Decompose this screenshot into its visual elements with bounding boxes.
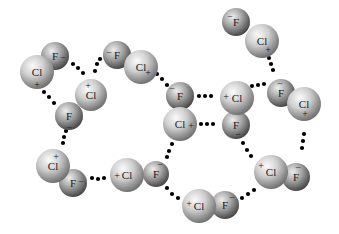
interaction-dot (93, 69, 97, 73)
positive-charge: + (85, 80, 91, 91)
fluorine-label: F (66, 110, 72, 122)
dipole-interaction (241, 141, 253, 158)
interaction-dot (302, 132, 306, 136)
dipole-interaction (93, 57, 102, 73)
positive-charge: + (265, 44, 271, 55)
positive-charge: + (114, 170, 120, 181)
interaction-dot (249, 154, 253, 158)
clf-dipole-diagram: F−Cl+F−Cl+F−Cl+F−Cl+F−Cl+F−Cl+F−Cl+F−Cl+… (0, 0, 339, 234)
interaction-dot (211, 122, 215, 126)
interaction-dot (209, 94, 213, 98)
positive-charge: + (302, 108, 308, 119)
positive-charge: + (145, 67, 151, 78)
interaction-dot (241, 141, 245, 145)
interaction-dot (76, 66, 80, 70)
interaction-dot (252, 188, 256, 192)
interaction-dot (197, 94, 201, 98)
interaction-dot (256, 83, 260, 87)
fluorine-label: F (222, 199, 228, 211)
fluorine-label: F (114, 49, 120, 61)
dipole-interaction (42, 90, 56, 105)
dipole-interaction (165, 186, 180, 200)
clf-molecule: F−Cl+ (254, 155, 310, 191)
interaction-dot (271, 68, 275, 72)
dipole-interaction (155, 72, 169, 87)
interaction-dot (262, 82, 266, 86)
interaction-dot (301, 139, 305, 143)
interaction-dot (300, 146, 304, 150)
dipole-interaction (300, 132, 306, 150)
fluorine-label: F (177, 90, 183, 102)
interaction-dot (240, 196, 244, 200)
interaction-dot (160, 77, 164, 81)
clf-molecule: F−Cl+ (103, 41, 158, 84)
dipole-interaction (199, 122, 215, 126)
positive-charge: + (186, 198, 192, 209)
fluorine-label: F (52, 50, 58, 62)
interaction-dot (90, 176, 94, 180)
interaction-dot (245, 148, 249, 152)
interaction-dot (176, 196, 180, 200)
dipole-interaction (71, 62, 85, 75)
chlorine-label: Cl (32, 66, 42, 78)
chlorine-label: Cl (232, 92, 242, 104)
interaction-dot (165, 186, 169, 190)
chlorine-label: Cl (122, 169, 132, 181)
positive-charge: + (258, 160, 264, 171)
chlorine-label: Cl (266, 166, 276, 178)
interaction-dot (203, 94, 207, 98)
clf-molecule: F−Cl+ (20, 42, 69, 90)
dipole-interaction (267, 56, 275, 72)
interaction-dot (170, 192, 174, 196)
interaction-dot (269, 62, 273, 66)
negative-charge: − (169, 83, 175, 94)
dipole-interaction (250, 82, 266, 88)
clf-molecule: F−Cl+ (222, 8, 279, 58)
clf-molecule: F−Cl+ (163, 82, 197, 141)
negative-charge: − (78, 176, 84, 187)
interaction-dot (47, 95, 51, 99)
interaction-dot (250, 84, 254, 88)
interaction-dot (102, 176, 106, 180)
fluorine-label: F (70, 177, 76, 189)
interaction-dot (62, 135, 66, 139)
interaction-dot (199, 122, 203, 126)
interaction-dot (205, 122, 209, 126)
interaction-dot (170, 142, 174, 146)
molecule-layer: F−Cl+F−Cl+F−Cl+F−Cl+F−Cl+F−Cl+F−Cl+F−Cl+… (20, 8, 321, 223)
negative-charge: − (295, 162, 301, 173)
negative-charge: − (157, 159, 163, 170)
interaction-dot (52, 101, 56, 105)
positive-charge: + (188, 120, 194, 131)
negative-charge: − (229, 192, 235, 203)
interaction-dot (81, 71, 85, 75)
positive-charge: + (34, 79, 40, 90)
dipole-interaction (90, 176, 106, 181)
negative-charge: − (106, 47, 112, 58)
interaction-dot (42, 90, 46, 94)
negative-charge: − (277, 78, 283, 89)
negative-charge: − (60, 52, 66, 63)
clf-molecule: F−Cl+ (110, 158, 169, 192)
interaction-dot (96, 177, 100, 181)
clf-molecule: F−Cl+ (182, 189, 239, 223)
interaction-dot (246, 192, 250, 196)
chlorine-label: Cl (194, 200, 204, 212)
interaction-dot (61, 141, 65, 145)
dipole-interaction (197, 94, 213, 98)
chlorine-label: Cl (175, 118, 185, 130)
interaction-dot (95, 62, 99, 66)
interaction-dot (98, 57, 102, 61)
interaction-dot (167, 149, 171, 153)
clf-molecule: F−Cl+ (36, 149, 87, 197)
interaction-dot (71, 62, 75, 66)
negative-charge: − (227, 11, 233, 22)
negative-charge: − (66, 122, 72, 133)
dipole-interaction (165, 142, 174, 159)
negative-charge: − (235, 129, 241, 140)
interaction-dot (165, 155, 169, 159)
positive-charge: + (223, 91, 229, 102)
fluorine-label: F (233, 16, 239, 28)
positive-charge: + (53, 151, 59, 162)
dipole-interaction (240, 188, 256, 200)
